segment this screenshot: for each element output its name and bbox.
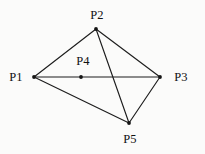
- vertex-dot-p4: [79, 75, 83, 79]
- vertex-dot-p3: [158, 75, 162, 79]
- vertex-label-p4: P4: [76, 55, 89, 68]
- diagram-canvas: P1P2P3P4P5: [0, 0, 205, 154]
- vertex-label-p3: P3: [174, 71, 187, 84]
- vertex-label-p5: P5: [123, 133, 136, 146]
- vertex-label-p2: P2: [90, 9, 103, 22]
- edge-p2-p3: [96, 29, 160, 77]
- vertices-group: [32, 27, 162, 125]
- edge-p3-p5: [129, 77, 160, 123]
- vertex-label-p1: P1: [9, 71, 22, 84]
- vertex-dot-p2: [94, 27, 98, 31]
- vertex-dot-p1: [32, 75, 36, 79]
- vertex-dot-p5: [127, 121, 131, 125]
- edges-group: [34, 29, 160, 123]
